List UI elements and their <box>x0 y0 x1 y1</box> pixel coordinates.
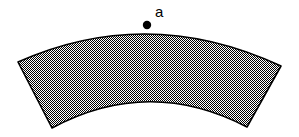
figure-canvas: a <box>0 0 299 137</box>
annulus-sector-figure <box>0 0 299 137</box>
point-label-a: a <box>155 4 163 19</box>
point-marker-a-dot <box>143 21 151 29</box>
curved-band-shape <box>18 34 281 128</box>
